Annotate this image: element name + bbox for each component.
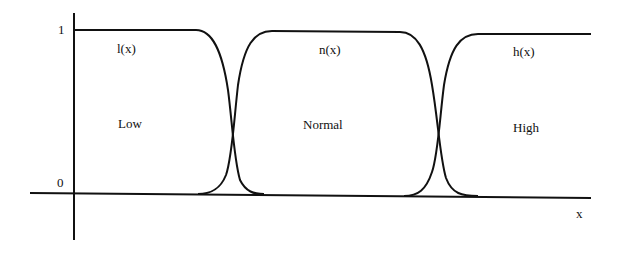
high-region-label: High (513, 121, 539, 134)
low-region-label: Low (118, 117, 142, 130)
normal-function-symbol: n(x) (319, 43, 341, 56)
high-function-symbol: h(x) (513, 45, 535, 58)
low-function-symbol: l(x) (117, 42, 136, 55)
x-axis (30, 193, 591, 198)
high-curve (404, 34, 591, 196)
normal-region-label: Normal (303, 118, 343, 131)
y-tick-label-1: 1 (58, 23, 65, 36)
y-tick-label-0: 0 (57, 176, 64, 189)
x-axis-label: x (576, 207, 583, 220)
